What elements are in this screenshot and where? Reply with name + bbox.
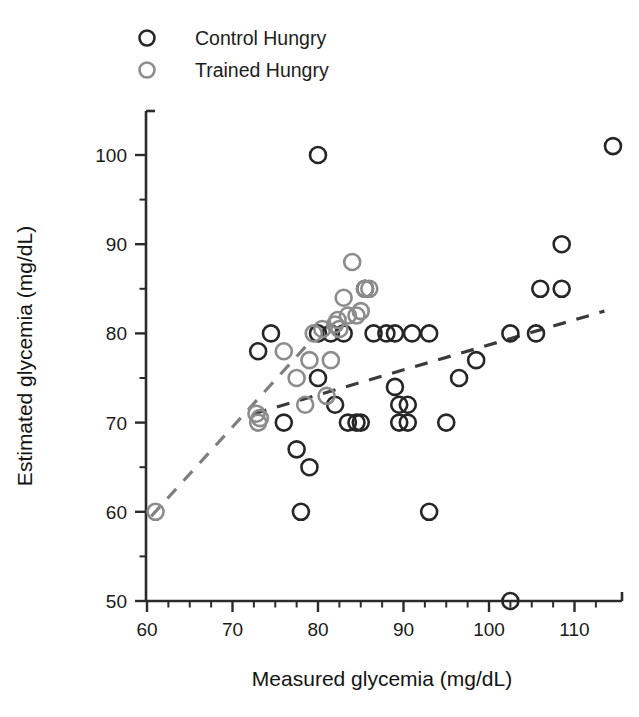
y-axis-tick-label: 100 [95, 145, 127, 166]
x-axis-tick-label: 100 [473, 619, 505, 640]
plot-canvas: Control HungryTrained Hungry 60708090100… [0, 0, 639, 717]
y-axis-tick-label: 70 [106, 413, 127, 434]
y-axis-title: Estimated glycemia (mg/dL) [13, 226, 36, 486]
y-axis-tick-label: 50 [106, 591, 127, 612]
x-axis-title: Measured glycemia (mg/dL) [252, 667, 512, 690]
x-axis-tick-label: 80 [307, 619, 328, 640]
x-axis-tick-label: 70 [222, 619, 243, 640]
x-axis-tick-label: 110 [559, 619, 589, 640]
legend-label: Trained Hungry [195, 59, 329, 81]
y-axis-tick-label: 60 [106, 502, 127, 523]
y-axis-tick-label: 80 [106, 323, 127, 344]
scatter-plot-figure: Control HungryTrained Hungry 60708090100… [0, 0, 639, 717]
figure-background [0, 0, 639, 717]
x-axis-tick-label: 60 [136, 619, 157, 640]
legend-label: Control Hungry [195, 27, 326, 49]
x-axis-tick-label: 90 [393, 619, 414, 640]
y-axis-tick-label: 90 [106, 234, 127, 255]
